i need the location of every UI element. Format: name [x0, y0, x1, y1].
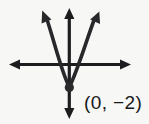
x-axis-right-arrowhead-icon: [120, 60, 131, 70]
y-axis-bottom-arrowhead-icon: [64, 108, 74, 119]
x-axis-left-arrowhead-icon: [9, 60, 20, 70]
y-axis-top-arrowhead-icon: [64, 8, 74, 19]
parabola-graph-figure: (0, −2): [0, 0, 149, 124]
vertex-point-marker: [65, 83, 74, 92]
vertex-coordinate-label: (0, −2): [84, 92, 142, 114]
